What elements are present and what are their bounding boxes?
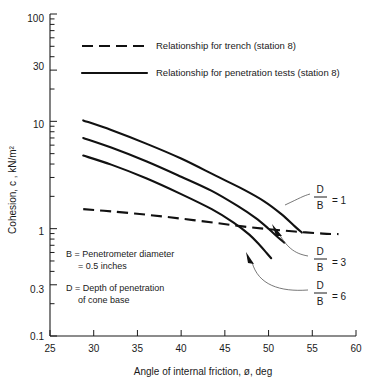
annotation-db-6-equals: = 6: [332, 291, 347, 302]
legend-label-trench: Relationship for trench (station 8): [156, 40, 296, 51]
data-curves: [83, 120, 338, 258]
annotation-db-3-numerator: D: [316, 246, 323, 257]
y-tick-label-30: 30: [33, 61, 45, 72]
annotation-db-1-equals: = 1: [332, 195, 347, 206]
x-tick-label-35: 35: [132, 343, 144, 354]
x-tick-label-50: 50: [263, 343, 275, 354]
chart-canvas: 100 30 10 1 0.3 0.1 25 30 35 40 45 50 55…: [0, 0, 373, 391]
y-tick-label-100: 100: [27, 13, 44, 24]
x-tick-label-60: 60: [350, 343, 362, 354]
x-tick-label-30: 30: [88, 343, 100, 354]
annotation-db-1: D B = 1: [285, 184, 347, 211]
x-tick-label-25: 25: [44, 343, 56, 354]
annotation-db-6-numerator: D: [316, 280, 323, 291]
annotation-db-3-denominator: B: [317, 262, 324, 273]
y-axis-ticks: [50, 14, 57, 336]
note-line-1: B = Penetrometer diameter: [66, 249, 174, 259]
y-tick-labels: 100 30 10 1 0.3 0.1: [27, 13, 44, 342]
curve-db-1: [83, 120, 302, 232]
leader-line-db-1: [285, 194, 310, 205]
annotation-db-3: D B = 3: [278, 232, 347, 273]
leader-arrowheads: [246, 224, 282, 264]
notes-block: B = Penetrometer diameter = 0.5 inches D…: [66, 249, 174, 305]
arrowhead-db-6: [246, 252, 254, 264]
y-tick-label-10: 10: [33, 119, 45, 130]
note-line-3: D = Depth of penetration: [66, 283, 164, 293]
x-tick-label-45: 45: [219, 343, 231, 354]
note-line-2: = 0.5 inches: [78, 261, 127, 271]
y-tick-label-1: 1: [38, 226, 44, 237]
leader-line-db-6: [252, 262, 308, 290]
y-axis-title: Cohesion, c , kN/m²: [7, 145, 18, 233]
annotation-db-3-equals: = 3: [332, 257, 347, 268]
x-tick-labels: 25 30 35 40 45 50 55 60: [44, 343, 362, 354]
y-tick-label-0-3: 0.3: [30, 284, 44, 295]
x-tick-label-55: 55: [307, 343, 319, 354]
chart-figure: 100 30 10 1 0.3 0.1 25 30 35 40 45 50 55…: [0, 0, 373, 391]
legend-label-penetration: Relationship for penetration tests (stat…: [156, 67, 340, 78]
annotation-db-6: D B = 6: [252, 262, 347, 307]
curve-db-6: [83, 156, 271, 259]
x-axis-ticks: [50, 330, 356, 336]
annotation-db-1-denominator: B: [317, 200, 324, 211]
annotation-db-1-numerator: D: [316, 184, 323, 195]
note-line-4: of cone base: [78, 295, 130, 305]
leader-line-db-3: [278, 232, 308, 256]
x-tick-label-40: 40: [176, 343, 188, 354]
y-tick-label-0-1: 0.1: [30, 331, 44, 342]
x-axis-title: Angle of internal friction, ø, deg: [134, 366, 272, 377]
annotation-db-6-denominator: B: [317, 296, 324, 307]
legend: Relationship for trench (station 8) Rela…: [82, 40, 340, 78]
